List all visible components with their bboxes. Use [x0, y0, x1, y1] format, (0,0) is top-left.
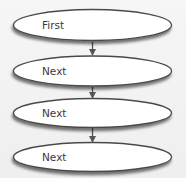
node-next-3[interactable]: Next — [14, 143, 172, 172]
node-next-1[interactable]: Next — [14, 56, 172, 86]
node-first[interactable]: First — [14, 10, 172, 41]
node-next-2[interactable]: Next — [14, 99, 172, 128]
node-label: Next — [42, 151, 66, 163]
node-ellipse — [14, 143, 172, 172]
node-ellipse — [14, 99, 172, 128]
node-ellipse — [14, 56, 172, 86]
node-label: First — [42, 19, 64, 31]
flowchart-canvas: First Next Next Next — [0, 0, 186, 178]
node-label: Next — [42, 107, 66, 119]
node-ellipse — [14, 10, 172, 41]
node-label: Next — [42, 65, 66, 77]
